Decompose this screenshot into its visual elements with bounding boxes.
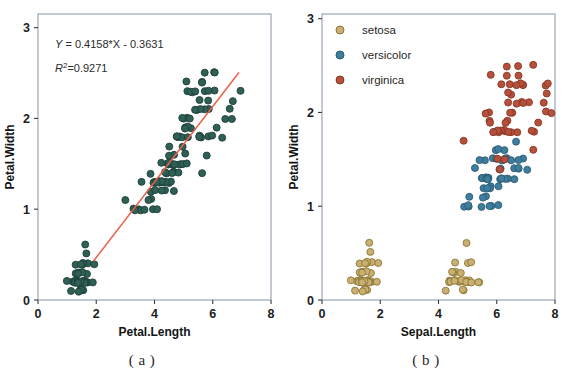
data-point xyxy=(487,71,494,78)
data-point xyxy=(359,279,366,286)
data-point xyxy=(548,110,555,117)
x-tick-label: 2 xyxy=(93,307,100,321)
data-point xyxy=(75,288,82,295)
data-point xyxy=(138,178,145,185)
x-tick-label: 4 xyxy=(151,307,158,321)
x-tick-label: 4 xyxy=(435,307,442,321)
data-point xyxy=(192,106,199,113)
data-point xyxy=(494,155,501,162)
legend-label-setosa: setosa xyxy=(362,24,396,36)
data-point xyxy=(145,197,152,204)
data-point xyxy=(154,206,161,213)
data-point xyxy=(535,119,542,126)
data-point xyxy=(457,270,464,277)
legend-marker-virginica xyxy=(336,76,344,84)
data-point xyxy=(513,82,520,89)
r-squared-annotation: R2=0.9271 xyxy=(55,61,107,74)
data-point xyxy=(515,72,522,79)
data-point xyxy=(367,248,374,255)
y-tick-label: 0 xyxy=(23,294,30,308)
y-tick-label: 3 xyxy=(23,21,30,35)
data-point xyxy=(479,194,486,201)
data-point xyxy=(198,79,205,86)
x-axis-title: Sepal.Length xyxy=(401,325,476,339)
x-tick-label: 0 xyxy=(35,307,42,321)
panel-b: 024680123Sepal.LengthPetal.Widthsetosave… xyxy=(284,0,568,390)
data-point xyxy=(468,259,475,266)
data-point xyxy=(490,129,497,136)
data-point xyxy=(203,152,210,159)
equation-body: = 0.4158*X - 0.3631 xyxy=(62,38,163,50)
x-axis-title: Petal.Length xyxy=(118,325,190,339)
data-point xyxy=(359,269,366,276)
x-tick-label: 2 xyxy=(377,307,384,321)
data-point xyxy=(171,161,178,168)
y-axis-title: Petal.Width xyxy=(287,124,301,189)
data-point xyxy=(459,286,466,293)
data-point xyxy=(68,287,75,294)
legend-item-setosa[interactable]: setosa xyxy=(336,24,396,36)
data-point xyxy=(158,187,165,194)
data-point xyxy=(460,137,467,144)
data-point xyxy=(505,128,512,135)
data-point xyxy=(496,166,503,173)
x-tick-label: 0 xyxy=(319,307,326,321)
data-point xyxy=(471,165,478,172)
plot-frame xyxy=(38,14,271,300)
r-symbol: R xyxy=(55,62,63,74)
data-point xyxy=(513,100,520,107)
data-point xyxy=(199,170,206,177)
data-point xyxy=(524,166,531,173)
data-point xyxy=(166,152,173,159)
data-point xyxy=(463,239,470,246)
data-point xyxy=(82,241,89,248)
data-point xyxy=(506,81,513,88)
data-point xyxy=(352,287,359,294)
data-point xyxy=(91,261,98,268)
data-point xyxy=(183,78,190,85)
data-point xyxy=(515,63,522,70)
panel-b-caption: ( b ) xyxy=(284,352,568,369)
data-point xyxy=(451,277,458,284)
r-squared-value: =0.9271 xyxy=(67,62,107,74)
data-point xyxy=(476,157,483,164)
data-point xyxy=(482,110,489,117)
data-point xyxy=(211,69,218,76)
data-point xyxy=(487,119,494,126)
data-point xyxy=(375,260,382,267)
data-point xyxy=(468,279,475,286)
equation-annotation: Y = 0.4158*X - 0.3631 xyxy=(55,38,164,50)
x-tick-label: 6 xyxy=(209,307,216,321)
data-point xyxy=(359,288,366,295)
legend-label-virginica: virginica xyxy=(362,74,405,86)
data-point xyxy=(182,125,189,132)
data-point xyxy=(75,270,82,277)
y-tick-label: 1 xyxy=(23,203,30,217)
data-point xyxy=(78,261,85,268)
y-tick-label: 1 xyxy=(307,200,314,214)
data-point xyxy=(520,99,527,106)
data-point xyxy=(465,202,472,209)
data-point xyxy=(502,119,509,126)
x-tick-label: 6 xyxy=(493,307,500,321)
data-point xyxy=(362,260,369,267)
data-point xyxy=(530,61,537,68)
data-point xyxy=(475,279,482,286)
data-point xyxy=(170,188,177,195)
data-point xyxy=(498,81,505,88)
data-point xyxy=(495,202,502,209)
data-point xyxy=(209,132,216,139)
regression-line xyxy=(93,72,239,261)
data-point xyxy=(501,156,508,163)
legend-item-virginica[interactable]: virginica xyxy=(336,74,405,86)
data-point xyxy=(166,143,173,150)
data-point xyxy=(515,165,522,172)
panel-a: 024680123Petal.LengthPetal.WidthY = 0.41… xyxy=(0,0,284,390)
legend-item-versicolor[interactable]: versicolor xyxy=(336,49,411,61)
data-point xyxy=(513,138,520,145)
data-point xyxy=(505,89,512,96)
data-point xyxy=(505,99,512,106)
data-point xyxy=(83,250,90,257)
series-setosa xyxy=(347,239,482,295)
data-point xyxy=(544,80,551,87)
